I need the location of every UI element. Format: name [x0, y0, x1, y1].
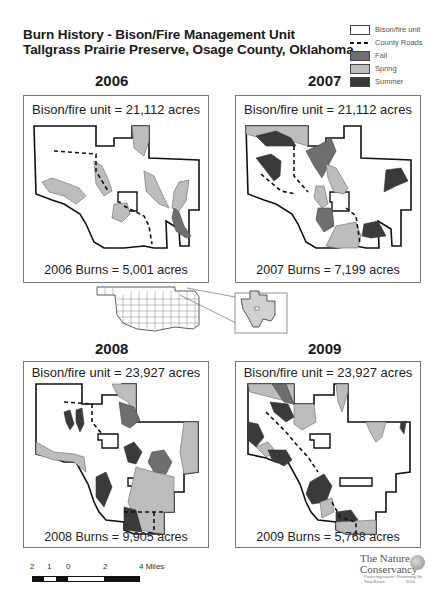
map-panel-2008: Bison/fire unit = 23,927 acres 2008 Burn…	[23, 361, 209, 548]
burn-acreage-label: 2008 Burns = 9,905 acres	[24, 530, 208, 544]
legend-label: Spring	[375, 63, 397, 75]
legend-item-county-roads: County Roads	[350, 37, 440, 50]
map-title: Burn History - Bison/Fire Management Uni…	[23, 27, 295, 42]
unit-acreage-label: Bison/fire unit = 21,112 acres	[24, 102, 208, 117]
scale-segment	[44, 576, 56, 582]
globe-icon	[410, 555, 425, 570]
dashed-line-icon	[350, 42, 370, 44]
unit-map-2007	[236, 96, 422, 284]
unit-acreage-label: Bison/fire unit = 23,927 acres	[24, 365, 208, 380]
burn-acreage-label: 2006 Burns = 5,001 acres	[24, 263, 208, 277]
year-heading-2006: 2006	[95, 72, 128, 89]
credit-year: 2010	[406, 579, 415, 584]
outline-swatch-icon	[350, 25, 370, 35]
unit-acreage-label: Bison/fire unit = 21,112 acres	[236, 102, 420, 117]
spring-swatch-icon	[350, 64, 370, 74]
legend-label: Summer	[375, 76, 403, 88]
legend: Bison/fire unit County Roads Fall Spring…	[350, 24, 440, 89]
scale-label: 2	[30, 562, 34, 571]
unit-map-2006	[24, 96, 210, 284]
scale-label: 1	[47, 562, 51, 571]
legend-item-fall: Fall	[350, 50, 440, 63]
unit-acreage-label: Bison/fire unit = 23,927 acres	[236, 365, 420, 380]
unit-map-2008	[24, 362, 210, 549]
legend-item-bison-unit: Bison/fire unit	[350, 24, 440, 37]
scale-label: 4 Miles	[139, 562, 164, 571]
legend-item-summer: Summer	[350, 76, 440, 89]
burn-acreage-label: 2009 Burns = 5,768 acres	[236, 530, 420, 544]
map-panel-2006: Bison/fire unit = 21,112 acres 2006 Burn…	[23, 95, 209, 283]
oklahoma-locator-map	[95, 285, 295, 339]
year-heading-2008: 2008	[95, 340, 128, 357]
map-subtitle: Tallgrass Prairie Preserve, Osage County…	[23, 42, 354, 57]
legend-label: Bison/fire unit	[375, 24, 420, 36]
legend-item-spring: Spring	[350, 63, 440, 76]
map-panel-2009: Bison/fire unit = 23,927 acres 2009 Burn…	[235, 361, 421, 548]
burn-acreage-label: 2007 Burns = 7,199 acres	[236, 263, 420, 277]
scale-segment	[68, 576, 104, 582]
year-heading-2009: 2009	[308, 340, 341, 357]
scale-label: 0	[66, 562, 70, 571]
scale-label: 2	[103, 562, 107, 571]
scale-segment	[104, 576, 140, 582]
credit-line: Tony Brown 2010	[364, 579, 430, 584]
unit-map-2009	[236, 362, 422, 549]
legend-label: Fall	[375, 50, 387, 62]
fall-swatch-icon	[350, 51, 370, 61]
legend-label: County Roads	[375, 37, 423, 49]
map-panel-2007: Bison/fire unit = 21,112 acres 2007 Burn…	[235, 95, 421, 283]
nature-conservancy-logo: The Nature Conservancy Protecting nature…	[360, 553, 430, 584]
author-name: Tony Brown	[364, 579, 385, 584]
scale-segment	[56, 576, 68, 582]
oklahoma-county-map	[95, 285, 295, 335]
scale-segment	[32, 576, 44, 582]
scale-bar: 2 1 0 2 4 Miles	[30, 562, 180, 574]
summer-swatch-icon	[350, 77, 370, 87]
year-heading-2007: 2007	[308, 72, 341, 89]
